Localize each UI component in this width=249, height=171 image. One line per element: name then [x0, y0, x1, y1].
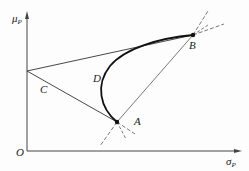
point-B-label: B [189, 40, 196, 51]
line-AB-ext-top [193, 11, 208, 35]
efficient-frontier-diagram: μP σP O B A C D [0, 0, 249, 171]
tangent-B-1 [193, 25, 208, 35]
point-B-marker [191, 33, 195, 37]
diagram-canvas [0, 0, 249, 171]
line-AB [117, 35, 193, 122]
curve-D-label: D [93, 73, 101, 84]
y-axis-arrow-icon [25, 11, 29, 19]
tangent-A-1 [117, 122, 126, 139]
line-AB-ext-bottom [100, 122, 117, 146]
point-C-label: C [40, 84, 47, 95]
tangent-A-2 [117, 122, 135, 134]
point-A-marker [115, 120, 119, 124]
y-axis-label: μP [12, 13, 22, 26]
x-axis-label: σP [226, 156, 236, 169]
tangent-B-2 [193, 24, 224, 35]
frontier-curve [101, 35, 193, 122]
point-A-label: A [134, 116, 141, 127]
x-axis-arrow-icon [234, 149, 242, 153]
origin-label: O [16, 147, 24, 158]
